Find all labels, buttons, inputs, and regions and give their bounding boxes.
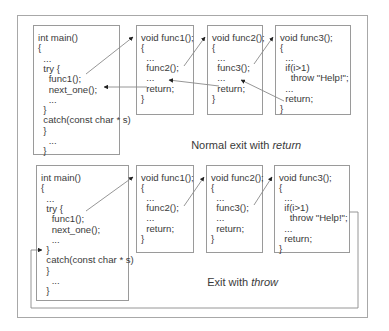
code-line: int main() — [41, 173, 81, 183]
code-line: return; — [141, 84, 174, 94]
code-line: int main() — [38, 33, 78, 43]
code-line: ... — [141, 213, 154, 223]
normal-func1-box: void func1();{ ... func2(); ... return;} — [136, 25, 194, 115]
normal-caption: Normal exit with return — [185, 127, 301, 151]
code-line: } — [279, 244, 282, 254]
code-line: ... — [212, 73, 225, 83]
code-line: void func3(); — [280, 33, 333, 43]
code-line: catch(const char * s) — [38, 115, 131, 125]
code-line: void func1(); — [141, 33, 194, 43]
code-line: ... — [211, 213, 224, 223]
code-line: return; — [280, 94, 313, 104]
code-line: ... — [141, 73, 154, 83]
code-line: void func1(); — [141, 173, 194, 183]
code-line: func1(); — [38, 74, 81, 84]
normal-caption-keyword: return — [272, 139, 301, 151]
code-line: void func2(); — [211, 173, 264, 183]
code-line: } — [212, 94, 215, 104]
code-line: catch(const char * s) — [41, 255, 134, 265]
code-line: } — [41, 286, 50, 296]
code-line: void func2(); — [212, 33, 265, 43]
throw-caption: Exit with throw — [201, 264, 278, 288]
throw-func3-box: void func3();{ ... if(i>1) throw "Help!"… — [274, 165, 350, 253]
code-line: throw "Help!"; — [279, 213, 348, 223]
code-line: void func3(); — [279, 173, 332, 183]
code-line: } — [141, 234, 144, 244]
code-line: throw "Help!"; — [280, 73, 349, 83]
normal-func2-box: void func2();{ ... func3(); ... return;} — [207, 25, 263, 115]
throw-func2-box: void func2();{ ... func3(); ... return;} — [206, 165, 263, 253]
code-line: return; — [211, 224, 244, 234]
code-line: return; — [212, 84, 245, 94]
code-line: } — [211, 234, 214, 244]
throw-caption-keyword: throw — [251, 276, 278, 288]
code-line: } — [280, 104, 283, 114]
normal-caption-text: Normal exit with — [191, 139, 272, 151]
code-line: { — [38, 43, 41, 53]
code-line: func1(); — [41, 214, 84, 224]
code-line: return; — [141, 224, 174, 234]
code-line: return; — [279, 234, 312, 244]
normal-func3-box: void func3();{ ... if(i>1) throw "Help!"… — [275, 25, 351, 115]
code-line: next_one(); — [38, 85, 97, 95]
code-line: ... — [280, 84, 293, 94]
code-line: } — [141, 94, 144, 104]
code-line: { — [41, 183, 44, 193]
code-line: } — [38, 146, 47, 156]
normal-main-box: int main(){ ... try { func1(); next_one(… — [33, 25, 120, 155]
code-line: next_one(); — [41, 225, 100, 235]
throw-caption-text: Exit with — [207, 276, 251, 288]
throw-main-box: int main(){ ... try { func1(); next_one(… — [36, 165, 129, 301]
throw-func1-box: void func1();{ ... func2(); ... return;} — [136, 165, 194, 253]
code-line: ... — [279, 224, 292, 234]
